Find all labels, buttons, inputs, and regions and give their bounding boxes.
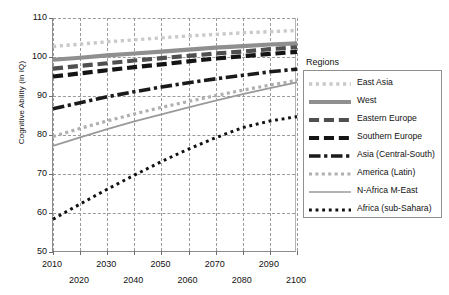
x-tick-label: 2030: [96, 260, 116, 269]
series-line: [53, 117, 297, 220]
legend-swatch: [309, 76, 351, 88]
y-tick-label: 110: [33, 13, 47, 22]
legend-swatch: [309, 166, 351, 178]
legend-item-label: East Asia: [357, 77, 393, 87]
legend-item[interactable]: Eastern Europe: [304, 109, 441, 127]
series-line: [53, 82, 297, 146]
legend-item-label: N-Africa M-East: [357, 185, 418, 195]
legend-item[interactable]: N-Africa M-East: [304, 181, 441, 199]
x-tick-label: 2010: [42, 260, 62, 269]
legend-item-label: America (Latin): [357, 167, 415, 177]
series-line: [53, 69, 297, 109]
legend-item-label: Asia (Central-South): [357, 149, 435, 159]
legend-swatch: [309, 94, 351, 106]
legend-item-label: Africa (sub-Sahara): [357, 203, 432, 213]
legend-item[interactable]: America (Latin): [304, 163, 441, 181]
x-tick-label: 2040: [123, 276, 143, 285]
y-tick-label: 70: [37, 169, 47, 178]
x-tick-label: 2020: [69, 276, 89, 285]
series-lines: [53, 18, 297, 252]
y-tick-label: 100: [32, 52, 47, 61]
chart-container: Cognitive Ability (in IQ) 11010090807060…: [0, 0, 449, 295]
y-tick-label: 80: [37, 130, 47, 139]
x-tick: [297, 251, 298, 255]
plot-area: 1101009080706050: [52, 18, 296, 252]
legend-swatch: [309, 148, 351, 160]
y-tick-label: 90: [37, 91, 47, 100]
x-tick-label: 2100: [286, 276, 306, 285]
gridline-vertical: [297, 18, 298, 251]
x-tick-label: 2070: [205, 260, 225, 269]
x-tick-label: 2090: [259, 260, 279, 269]
y-tick-label: 60: [37, 208, 47, 217]
legend-swatch: [309, 130, 351, 142]
legend-item[interactable]: East Asia: [304, 73, 441, 91]
y-tick-label: 50: [37, 247, 47, 256]
series-line: [53, 80, 297, 136]
x-tick-label: 2060: [178, 276, 198, 285]
legend-item[interactable]: Southern Europe: [304, 127, 441, 145]
legend: East AsiaWestEastern EuropeSouthern Euro…: [303, 70, 442, 218]
legend-item-label: Southern Europe: [357, 131, 422, 141]
legend-item-label: Eastern Europe: [357, 113, 417, 123]
legend-item[interactable]: West: [304, 91, 441, 109]
x-tick-label: 2080: [232, 276, 252, 285]
legend-swatch: [309, 112, 351, 124]
legend-item[interactable]: Asia (Central-South): [304, 145, 441, 163]
y-axis-title: Cognitive Ability (in IQ): [17, 38, 26, 168]
legend-swatch: [309, 184, 351, 196]
legend-title: Regions: [306, 57, 339, 67]
x-tick-label: 2050: [150, 260, 170, 269]
legend-item[interactable]: Africa (sub-Sahara): [304, 199, 441, 217]
legend-swatch: [309, 202, 351, 214]
legend-item-label: West: [357, 95, 376, 105]
